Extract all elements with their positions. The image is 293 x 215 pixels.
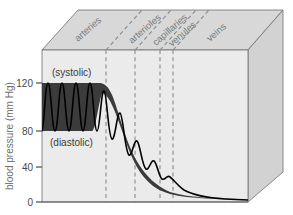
y-tick-40: 40 xyxy=(22,162,34,173)
figure-container: 120 80 40 0 blood pressure (mm Hg) (syst… xyxy=(0,0,293,215)
y-axis-title: blood pressure (mm Hg) xyxy=(4,82,15,190)
y-tick-80: 80 xyxy=(22,126,34,137)
y-tick-120: 120 xyxy=(16,78,33,89)
y-tick-0: 0 xyxy=(27,197,33,208)
y-axis xyxy=(36,83,42,202)
systolic-label: (systolic) xyxy=(52,67,91,78)
diastolic-label: (diastolic) xyxy=(50,137,93,148)
blood-pressure-chart: 120 80 40 0 blood pressure (mm Hg) (syst… xyxy=(0,0,293,215)
